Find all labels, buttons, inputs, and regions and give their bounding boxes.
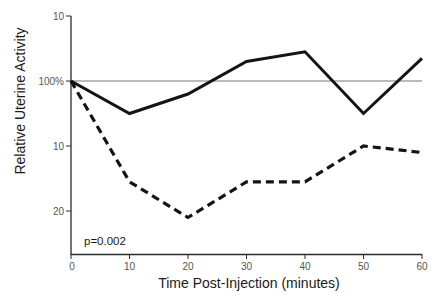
x-tick-label: 40	[299, 261, 311, 272]
y-tick-label: 10	[53, 141, 65, 152]
y-tick-label: 100%	[38, 76, 64, 87]
y-ticks	[66, 16, 71, 211]
x-axis-title: Time Post-Injection (minutes)	[158, 275, 340, 291]
x-tick-label: 10	[124, 261, 136, 272]
y-tick-label: 20	[53, 206, 65, 217]
series-dashed-line	[71, 81, 422, 218]
y-tick-label: 10	[53, 11, 65, 22]
x-tick-label: 60	[416, 261, 428, 272]
y-axis-title: Relative Uterine Activity	[12, 27, 28, 174]
p-value-annotation: p=0.002	[84, 235, 126, 247]
series-solid-line	[71, 52, 422, 114]
x-tick-label: 30	[241, 261, 253, 272]
x-tick-label: 20	[182, 261, 194, 272]
x-tick-label: 0	[69, 261, 75, 272]
line-chart: 10 100% 10 20 0 10 20 30 40 50 60 p=0.00…	[0, 0, 438, 301]
x-tick-label: 50	[358, 261, 370, 272]
